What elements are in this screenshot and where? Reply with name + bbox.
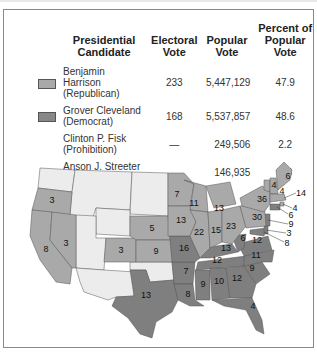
percent-vote: 2.2	[253, 131, 317, 159]
label-al: 10	[214, 276, 224, 286]
democrat-swatch	[38, 112, 56, 122]
label-va: 12	[252, 235, 262, 245]
label-in: 15	[211, 225, 221, 235]
territory-wy	[96, 208, 130, 236]
electoral-vote: 233	[148, 64, 200, 103]
label-wv: 6	[240, 233, 245, 243]
label-tx: 13	[141, 290, 151, 300]
label-nc: 11	[251, 250, 260, 260]
header-popular: Popular Vote	[201, 22, 254, 64]
label-ks: 9	[153, 246, 158, 256]
label-ne: 5	[149, 223, 154, 233]
electoral-vote: —	[148, 131, 200, 159]
label-nv: 3	[63, 238, 68, 248]
table-row: Benjamin Harrison(Republican) 233 5,447,…	[38, 64, 317, 103]
label-vt: 4	[271, 180, 276, 190]
label-me: 6	[285, 171, 290, 181]
percent-vote: 47.9	[253, 64, 317, 103]
territory-wa	[38, 168, 75, 192]
label-ms: 9	[200, 279, 205, 289]
popular-vote: 5,537,857	[201, 103, 254, 131]
candidate-name: Clinton P. Fisk	[63, 133, 126, 144]
territory-az-nm	[76, 268, 136, 300]
label-la: 8	[185, 289, 190, 299]
candidate-name: Grover Cleveland	[63, 105, 141, 116]
table-row: Grover Cleveland(Democrat) 168 5,537,857…	[38, 103, 317, 131]
candidate-party: (Republican)	[63, 88, 120, 99]
state-ct	[270, 204, 280, 210]
label-ca: 8	[43, 244, 48, 254]
header-candidate: Presidential Candidate	[60, 22, 148, 64]
header-electoral: Electoral Vote	[148, 22, 200, 64]
label-ky: 13	[221, 243, 231, 253]
state-vt	[264, 180, 270, 192]
label-ia: 13	[176, 215, 186, 225]
label-ma: 14	[296, 188, 306, 198]
label-tn: 12	[212, 255, 222, 265]
label-wi: 11	[189, 198, 198, 208]
us-election-map-1888: 3 3 8 3 5 9 13 7 11 13 16 7 8 22 13 15 2…	[6, 158, 311, 346]
label-ar: 7	[183, 266, 188, 276]
percent-vote: 48.6	[253, 103, 317, 131]
candidate-name: Benjamin Harrison	[63, 66, 105, 88]
label-oh: 23	[226, 221, 236, 231]
popular-vote: 5,447,129	[201, 64, 254, 103]
top-edge	[0, 0, 317, 2]
label-sc: 9	[249, 263, 254, 273]
label-ny: 36	[257, 194, 267, 204]
header-percent: Percent of Popular Vote	[253, 22, 317, 64]
label-pa: 30	[252, 212, 262, 222]
table-header-row: Presidential Candidate Electoral Vote Po…	[38, 22, 317, 64]
label-fl: 4	[250, 301, 255, 311]
candidate-party: (Democrat)	[63, 116, 113, 127]
label-md: 8	[284, 238, 289, 248]
label-mo: 16	[179, 243, 189, 253]
label-co: 3	[118, 245, 123, 255]
territory-dakotas	[130, 172, 168, 216]
label-ga: 12	[232, 273, 242, 283]
popular-vote: 249,506	[201, 131, 254, 159]
label-or: 3	[49, 195, 54, 205]
state-fl	[212, 298, 264, 334]
candidate-party: (Prohibition)	[63, 144, 117, 155]
electoral-vote: 168	[148, 103, 200, 131]
republican-swatch	[38, 79, 56, 89]
table-row: Clinton P. Fisk(Prohibition) — 249,506 2…	[38, 131, 317, 159]
label-il: 22	[194, 227, 204, 237]
label-de: 3	[286, 228, 291, 238]
label-nh: 4	[279, 186, 284, 196]
label-mi: 13	[214, 203, 224, 213]
label-mn: 7	[174, 189, 179, 199]
